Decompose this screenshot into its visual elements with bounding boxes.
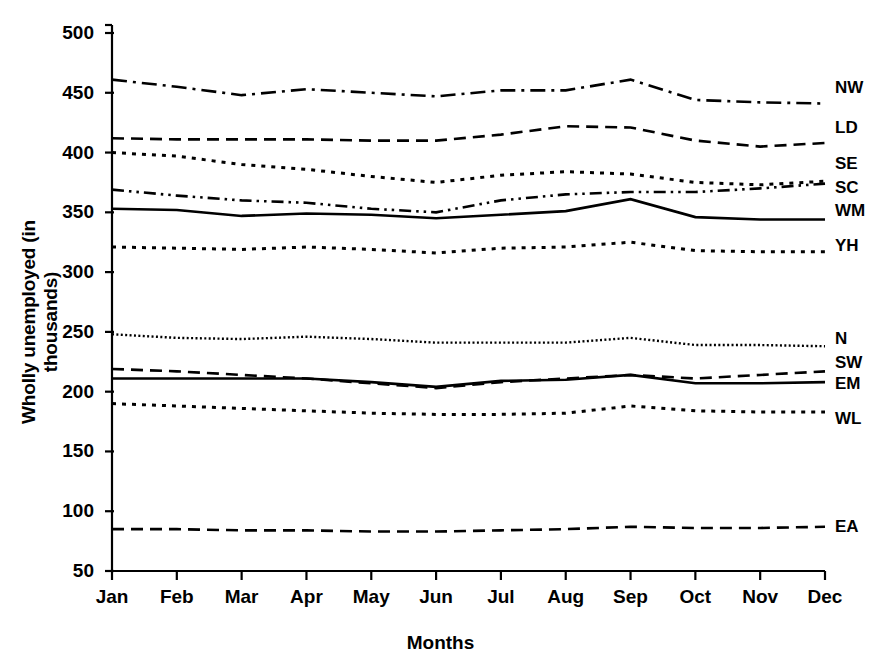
series-line-em	[112, 375, 825, 387]
series-label-yh: YH	[835, 237, 859, 254]
series-label-wl: WL	[835, 410, 861, 427]
y-tick-label: 50	[34, 561, 94, 580]
y-tick-label: 500	[34, 23, 94, 42]
series-label-ea: EA	[835, 518, 859, 535]
series-line-wm	[112, 199, 825, 219]
series-label-em: EM	[835, 375, 861, 392]
series-line-ld	[112, 126, 825, 146]
series-label-n: N	[835, 330, 847, 347]
series-line-n	[112, 334, 825, 346]
series-line-yh	[112, 242, 825, 253]
y-tick-label: 400	[34, 143, 94, 162]
series-line-nw	[112, 80, 825, 104]
x-tick-label: Aug	[531, 587, 601, 606]
x-tick-label: Jul	[466, 587, 536, 606]
y-tick-label: 200	[34, 382, 94, 401]
y-tick-label: 350	[34, 202, 94, 221]
series-label-sc: SC	[835, 179, 859, 196]
x-tick-label: Dec	[790, 587, 860, 606]
y-tick-label: 250	[34, 322, 94, 341]
series-label-sw: SW	[835, 354, 862, 371]
series-label-nw: NW	[835, 79, 863, 96]
y-tick-label: 450	[34, 83, 94, 102]
x-tick-label: Jun	[401, 587, 471, 606]
series-line-se	[112, 153, 825, 185]
series-label-wm: WM	[835, 202, 865, 219]
x-tick-label: Mar	[207, 587, 277, 606]
x-tick-label: Feb	[142, 587, 212, 606]
series-group	[112, 80, 825, 532]
series-label-ld: LD	[835, 119, 858, 136]
series-line-sc	[112, 184, 825, 213]
y-tick-label: 150	[34, 441, 94, 460]
axis-lines	[105, 25, 825, 580]
series-line-wl	[112, 404, 825, 415]
x-tick-label: Sep	[596, 587, 666, 606]
x-tick-label: May	[336, 587, 406, 606]
unemployment-line-chart: Wholly unemployed (in thousands) Months …	[0, 0, 881, 671]
x-tick-label: Nov	[725, 587, 795, 606]
plot-area	[0, 0, 881, 671]
y-tick-label: 300	[34, 262, 94, 281]
x-tick-label: Jan	[77, 587, 147, 606]
x-tick-label: Apr	[271, 587, 341, 606]
series-label-se: SE	[835, 155, 858, 172]
y-tick-label: 100	[34, 501, 94, 520]
series-line-ea	[112, 527, 825, 532]
x-tick-label: Oct	[660, 587, 730, 606]
